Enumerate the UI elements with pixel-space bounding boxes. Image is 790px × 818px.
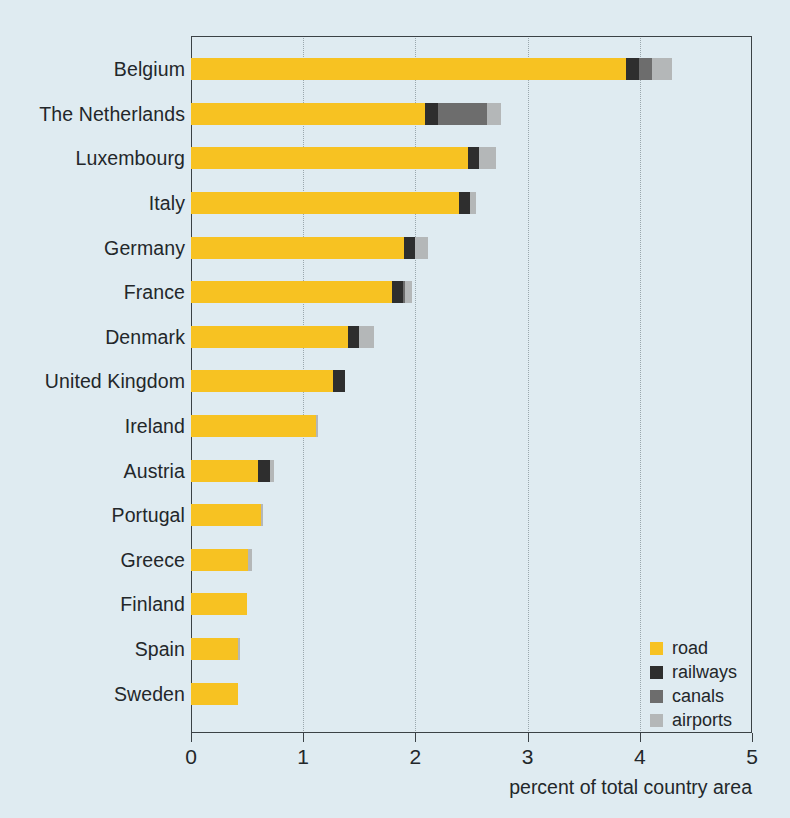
legend-label: railways — [672, 662, 737, 683]
railways-swatch — [650, 666, 663, 679]
x-tick-mark — [752, 733, 753, 742]
x-tick-label: 4 — [634, 745, 646, 769]
x-tick-mark — [528, 733, 529, 742]
road-swatch — [650, 642, 663, 655]
legend-item-airports: airports — [650, 709, 750, 732]
canals-swatch — [650, 690, 663, 703]
legend-item-road: road — [650, 637, 750, 660]
x-tick-label: 2 — [410, 745, 422, 769]
legend: roadrailwayscanalsairports — [650, 637, 750, 733]
x-tick-label: 0 — [185, 745, 197, 769]
x-tick-mark — [640, 733, 641, 742]
airports-swatch — [650, 714, 663, 727]
x-tick-label: 1 — [297, 745, 309, 769]
x-tick-mark — [415, 733, 416, 742]
x-axis-title: percent of total country area — [509, 776, 752, 799]
legend-item-railways: railways — [650, 661, 750, 684]
legend-label: road — [672, 638, 708, 659]
legend-item-canals: canals — [650, 685, 750, 708]
x-tick-mark — [303, 733, 304, 742]
legend-label: airports — [672, 710, 732, 731]
x-tick-label: 3 — [522, 745, 534, 769]
legend-label: canals — [672, 686, 724, 707]
x-tick-mark — [191, 733, 192, 742]
x-tick-label: 5 — [746, 745, 758, 769]
transport-land-use-bar-chart: BelgiumThe NetherlandsLuxembourgItalyGer… — [0, 0, 790, 818]
